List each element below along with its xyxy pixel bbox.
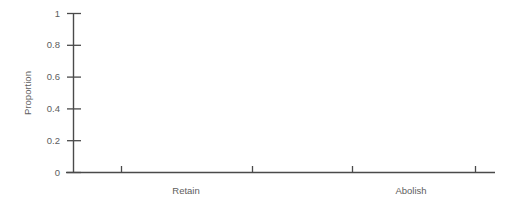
plot-area (73, 13, 495, 172)
y-tick-label-0: 0 (55, 167, 60, 178)
chart-container: 1 0.8 0.6 0.4 0.2 0 Proportion Retain Ab… (0, 0, 519, 214)
y-tick-label-0.4: 0.4 (47, 103, 60, 114)
y-tick-label-1: 1 (55, 8, 60, 19)
y-axis-title: Proportion (22, 71, 33, 115)
y-tick-label-0.8: 0.8 (47, 39, 60, 50)
x-category-label-abolish: Abolish (395, 185, 426, 196)
x-category-label-retain: Retain (172, 185, 199, 196)
y-tick-label-0.2: 0.2 (47, 135, 60, 146)
y-tick-label-0.6: 0.6 (47, 71, 60, 82)
chart-plot-svg: 1 0.8 0.6 0.4 0.2 0 Proportion Retain Ab… (0, 0, 519, 214)
